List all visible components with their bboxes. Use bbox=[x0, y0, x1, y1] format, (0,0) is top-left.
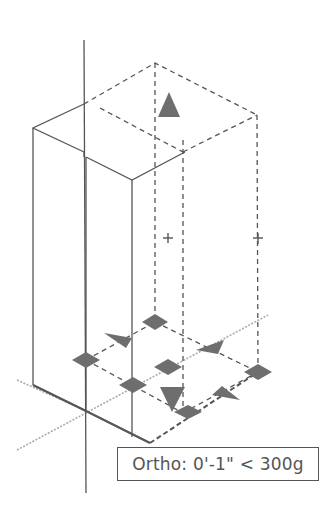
grip-diamond-icon[interactable] bbox=[174, 405, 202, 419]
drawing-canvas[interactable] bbox=[0, 0, 333, 514]
grip-cross-icon[interactable] bbox=[253, 233, 263, 244]
grip-arrow-left-icon[interactable] bbox=[104, 333, 132, 348]
dashed-bottom-front-edge bbox=[150, 372, 258, 443]
grip-cross-icon[interactable] bbox=[163, 233, 173, 243]
ortho-tooltip-text: Ortho: 0'-1" < 300g bbox=[132, 454, 304, 474]
grip-arrow-right-icon[interactable] bbox=[212, 386, 240, 400]
grip-triangle-down-icon[interactable] bbox=[160, 387, 185, 412]
ortho-tooltip: Ortho: 0'-1" < 300g bbox=[117, 447, 319, 481]
grips[interactable] bbox=[72, 92, 272, 419]
grip-triangle-up-icon[interactable] bbox=[158, 92, 180, 117]
grip-diamond-icon[interactable] bbox=[154, 359, 182, 375]
grip-diamond-icon[interactable] bbox=[142, 314, 168, 330]
